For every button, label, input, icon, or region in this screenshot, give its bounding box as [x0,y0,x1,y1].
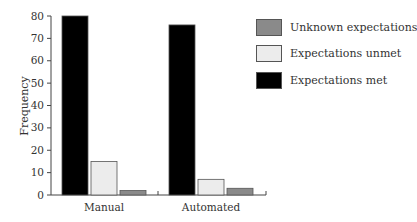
bar-unknown-expectations [120,191,146,195]
legend: Unknown expectations Expectations unmet … [256,18,417,98]
bar-expectations-met [62,16,88,195]
legend-item-met: Expectations met [256,71,417,89]
bar-expectations-unmet [91,161,117,195]
y-tick-label: 70 [31,32,44,44]
bar-expectations-met [169,25,195,195]
legend-swatch-met [256,72,282,89]
y-tick-label: 60 [31,54,44,66]
y-tick-label: 20 [31,144,44,156]
x-category-label: Manual [84,201,125,213]
legend-item-unknown: Unknown expectations [256,18,417,36]
bars [62,16,253,195]
bar-unknown-expectations [227,188,253,195]
y-axis: 01020304050607080 [31,10,51,201]
legend-label: Expectations unmet [290,47,401,60]
x-category-label: Automated [181,201,241,213]
legend-swatch-unmet [256,45,282,62]
legend-swatch-unknown [256,19,282,36]
y-tick-label: 30 [31,121,44,133]
y-axis-title: Frequency [18,75,31,135]
y-tick-label: 10 [31,166,44,178]
bar-expectations-unmet [198,179,224,195]
y-tick-label: 0 [37,189,44,201]
y-tick-label: 40 [31,99,44,111]
legend-item-unmet: Expectations unmet [256,45,417,63]
legend-label: Expectations met [290,74,387,87]
legend-label: Unknown expectations [290,21,417,34]
y-tick-label: 80 [31,10,44,22]
y-tick-label: 50 [31,77,44,89]
